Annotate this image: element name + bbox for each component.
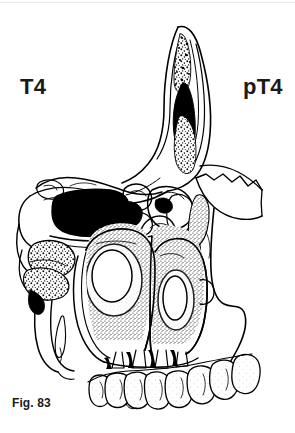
illustration-linework — [17, 26, 262, 409]
stage-label-pathological: pT4 — [243, 74, 283, 100]
anatomical-illustration — [0, 0, 295, 433]
stage-label-clinical: T4 — [20, 74, 46, 100]
maxillary-sinus-region — [74, 220, 217, 362]
figure-page: T4 pT4 Fig. 83 — [0, 0, 295, 433]
frontal-process-region — [112, 26, 211, 203]
figure-caption: Fig. 83 — [12, 396, 51, 410]
